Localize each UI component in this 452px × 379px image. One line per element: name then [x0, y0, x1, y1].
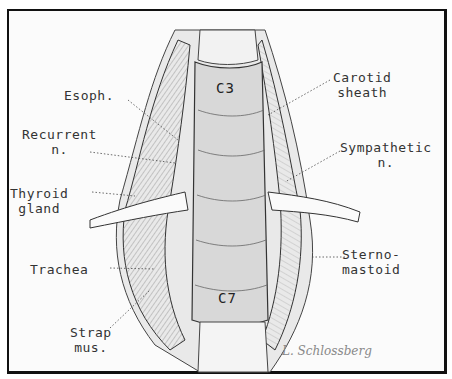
label-trachea: Trachea: [30, 262, 88, 277]
label-strap-muscle: Strap mus.: [70, 325, 112, 355]
label-carotid-sheath: Carotid sheath: [333, 70, 391, 100]
label-sternomastoid: Sterno- mastoid: [342, 247, 400, 277]
vertebra-label-c7: C7: [218, 290, 237, 306]
artist-signature: L. Schlossberg: [282, 344, 372, 358]
vertebra-label-c3: C3: [216, 80, 235, 96]
label-thyroid-gland: Thyroid gland: [10, 186, 68, 216]
label-esophagus: Esoph.: [64, 88, 114, 103]
label-recurrent-nerve: Recurrent n.: [22, 127, 97, 157]
label-sympathetic-nerve: Sympathetic n.: [340, 140, 432, 170]
